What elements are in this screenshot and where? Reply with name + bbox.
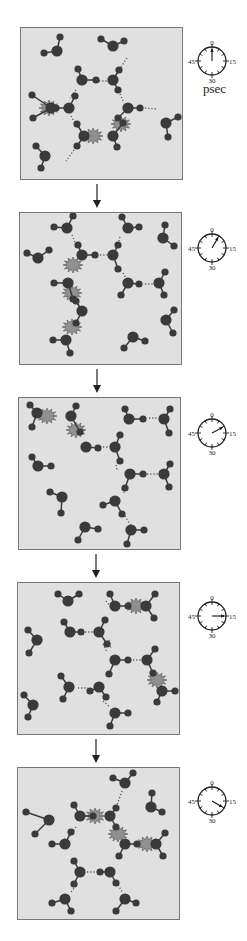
oxygen-atom (76, 74, 87, 85)
water-molecule (23, 246, 52, 263)
hydrogen-atom (166, 460, 173, 467)
oxygen-atom (123, 413, 134, 424)
oxygen-atom (63, 681, 74, 692)
clock-label-30: 30 (209, 817, 217, 825)
hydrogen-atom (70, 801, 77, 808)
oxygen-atom (107, 40, 118, 51)
hydrogen-atom (135, 223, 142, 230)
oxygen-atom (122, 277, 133, 288)
hydrogen-atom (92, 76, 99, 83)
hydrogen-atom (101, 616, 108, 623)
hydrogen-atom (25, 649, 32, 656)
hydrogen-atom (151, 590, 158, 597)
hydrogen-atom (150, 614, 157, 621)
stopwatch-icon: 0153045 (187, 590, 237, 640)
water-molecule (74, 65, 99, 85)
hydrogen-atom (50, 223, 57, 230)
water-network (18, 768, 181, 921)
hydrogen-atom (170, 242, 177, 249)
oxygen-atom (109, 600, 120, 611)
oxygen-atom (39, 150, 50, 161)
hydrogen-atom (133, 840, 140, 847)
oxygen-atom (65, 410, 76, 421)
hydrogen-atom (116, 457, 123, 464)
hydrogen-atom (54, 590, 61, 597)
oxygen-atom (79, 521, 90, 532)
clock-label-0: 0 (210, 779, 214, 787)
oxygen-atom (160, 314, 171, 325)
hydrogen-atom (91, 251, 98, 258)
hydrogen-atom (139, 470, 146, 477)
clock-label-45: 45 (188, 613, 196, 621)
hydrogen-atom (164, 133, 171, 140)
oxygen-atom (122, 102, 133, 113)
hydrogen-atom (170, 306, 177, 313)
hydrogen-atom (72, 319, 79, 326)
oxygen-atom (74, 866, 85, 877)
hydrogen-atom (49, 336, 56, 343)
water-molecule (48, 893, 74, 914)
hydrogen-atom (141, 337, 148, 344)
water-molecule (141, 645, 158, 676)
water-molecule (107, 241, 121, 272)
hydrogen-bond (106, 601, 110, 606)
hydrogen-atom (115, 66, 122, 73)
oxygen-atom (61, 222, 72, 233)
hydrogen-atom (160, 291, 167, 298)
oxygen-atom (31, 407, 42, 418)
oxygen-atom (141, 654, 152, 665)
hydrogen-atom (148, 789, 155, 796)
water-molecule (106, 707, 131, 729)
water-molecule (112, 893, 139, 914)
hydrogen-atom (47, 462, 54, 469)
water-molecule (107, 66, 122, 93)
oxygen-atom (93, 626, 104, 637)
hydrogen-atom (26, 401, 33, 408)
hydrogen-atom (161, 268, 168, 275)
water-molecule (160, 306, 177, 336)
hydrogen-atom (74, 65, 81, 72)
hydrogen-atom (76, 428, 83, 435)
hydrogen-atom (165, 483, 172, 490)
water-molecule (49, 334, 73, 356)
hydrogen-bond (66, 150, 74, 161)
clock-label-15: 15 (229, 58, 237, 66)
oxygen-atom (153, 277, 164, 288)
hydrogen-atom (23, 249, 30, 256)
water-molecule (48, 828, 74, 849)
hydrogen-atom (165, 429, 172, 436)
hydrogen-atom (112, 804, 119, 811)
oxygen-atom (107, 249, 118, 260)
oxygen-atom (156, 685, 167, 696)
water-molecule (24, 626, 42, 656)
hydrogen-atom (106, 590, 113, 597)
hydrogen-atom (121, 484, 128, 491)
hydrogen-bond (145, 108, 156, 109)
clock-label-30: 30 (209, 632, 217, 640)
oxygen-atom (158, 468, 169, 479)
hydrogen-atom (159, 852, 166, 859)
hydrogen-atom (48, 840, 55, 847)
hydrogen-atom (60, 618, 67, 625)
hydrogen-atom (114, 241, 121, 248)
hydrogen-atom (66, 349, 73, 356)
water-molecule (109, 431, 123, 464)
water-molecule (86, 681, 109, 700)
oxygen-atom (32, 460, 43, 471)
water-molecule (70, 857, 85, 887)
oxygen-atom (74, 810, 85, 821)
water-molecule (40, 33, 63, 56)
hydrogen-atom (74, 241, 81, 248)
hydrogen-atom (112, 879, 119, 886)
clock-label-0: 0 (210, 594, 214, 602)
water-molecule (121, 468, 146, 491)
hydrogen-atom (166, 405, 173, 412)
hydrogen-atom (73, 120, 80, 127)
oxygen-atom (119, 893, 130, 904)
hydrogen-atom (115, 852, 122, 859)
hydrogen-atom (45, 246, 52, 253)
oxygen-atom (62, 277, 73, 288)
hydrogen-atom (37, 164, 44, 171)
water-molecule (157, 221, 177, 249)
water-molecule (60, 618, 84, 637)
